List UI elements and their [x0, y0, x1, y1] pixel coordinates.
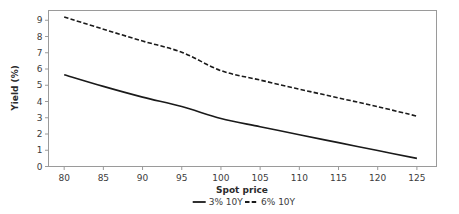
y-axis-title: Yield (%) [10, 65, 20, 112]
x-tick-label: 95 [176, 173, 187, 183]
x-tick-label: 110 [291, 173, 308, 183]
y-tick-label: 5 [37, 80, 43, 90]
x-tick-label: 80 [58, 173, 70, 183]
x-tick-label: 100 [212, 173, 229, 183]
line-chart-canvas: 80859095100105110115120125 0123456789 Sp… [0, 0, 459, 214]
x-tick-label: 115 [330, 173, 347, 183]
y-tick-label: 3 [37, 113, 43, 123]
y-tick-label: 0 [37, 162, 43, 172]
x-tick-label: 90 [137, 173, 149, 183]
y-tick-label: 1 [37, 145, 43, 155]
y-tick-label: 6 [37, 64, 43, 74]
y-tick-label: 7 [37, 48, 43, 58]
legend-label: 6% 10Y [261, 197, 296, 207]
legend-label: 3% 10Y [209, 197, 244, 207]
x-tick-label: 125 [408, 173, 425, 183]
y-tick-label: 4 [37, 97, 43, 107]
chart-figure: 80859095100105110115120125 0123456789 Sp… [0, 0, 459, 214]
y-tick-label: 8 [37, 32, 43, 42]
x-tick-label: 105 [252, 173, 269, 183]
x-tick-label: 85 [98, 173, 109, 183]
x-tick-label: 120 [369, 173, 386, 183]
y-tick-label: 2 [37, 129, 43, 139]
x-axis-title: Spot price [216, 185, 268, 195]
y-tick-label: 9 [37, 15, 43, 25]
